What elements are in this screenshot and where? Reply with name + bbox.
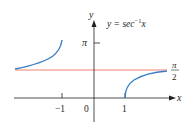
equation-label: y = sec−1x — [106, 17, 146, 29]
right-branch-curve — [125, 71, 167, 98]
left-branch-curve — [15, 40, 62, 69]
y-axis-arrow-icon — [92, 20, 97, 27]
tick-label-pi-half-den: 2 — [172, 72, 177, 82]
tick-label-1: 1 — [122, 104, 127, 114]
tick-label-pi-half-num: π — [172, 60, 177, 70]
tick-label-neg1: −1 — [55, 104, 65, 114]
chart-canvas: y x y = sec−1x π π 2 −1 0 1 — [0, 0, 185, 125]
x-axis-label: x — [176, 92, 182, 103]
x-axis-arrow-icon — [169, 96, 176, 101]
y-axis-label: y — [88, 9, 94, 20]
tick-label-0: 0 — [84, 104, 89, 114]
tick-label-pi: π — [82, 37, 88, 48]
